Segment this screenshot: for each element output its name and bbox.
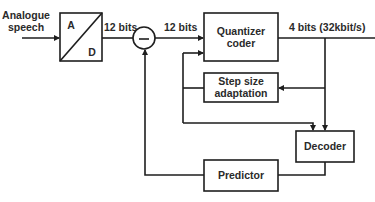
adpcm-block-diagram: Analogue speech A D 12 bits 12 bits Quan… bbox=[0, 0, 375, 202]
quantizer-label-line1: Quantizer bbox=[217, 25, 265, 37]
predictor-label: Predictor bbox=[218, 169, 264, 181]
step-size-adaptation-block: Step size adaptation bbox=[204, 73, 278, 102]
stepsize-label-line2: adaptation bbox=[214, 87, 267, 99]
output-label: 4 bits (32kbit/s) bbox=[289, 21, 365, 33]
adc-out-label: 12 bits bbox=[104, 21, 137, 33]
predictor-to-subtractor-arrow bbox=[145, 50, 204, 175]
decoder-to-predictor-line bbox=[278, 162, 325, 175]
quantizer-coder-block: Quantizer coder bbox=[204, 13, 278, 61]
adc-label-d: D bbox=[88, 46, 96, 58]
stepsize-label-line1: Step size bbox=[218, 75, 264, 87]
predictor-block: Predictor bbox=[204, 160, 278, 191]
input-label-line1: Analogue bbox=[2, 9, 50, 21]
decoder-label: Decoder bbox=[304, 140, 346, 152]
stepsize-to-decoder-arrow bbox=[183, 123, 313, 130]
input-label-line2: speech bbox=[8, 21, 44, 33]
subtractor-node bbox=[133, 27, 155, 49]
adc-label-a: A bbox=[67, 19, 75, 31]
diff-out-label: 12 bits bbox=[164, 21, 197, 33]
decoder-block: Decoder bbox=[296, 131, 354, 162]
adc-block: A D bbox=[60, 13, 102, 61]
quantizer-label-line2: coder bbox=[227, 37, 256, 49]
